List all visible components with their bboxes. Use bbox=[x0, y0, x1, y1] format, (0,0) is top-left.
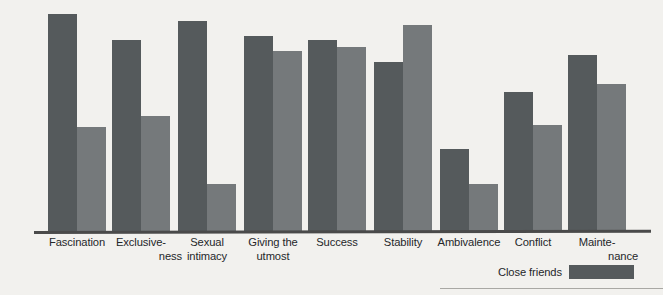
bar bbox=[403, 25, 432, 232]
bar bbox=[440, 149, 469, 232]
bar bbox=[244, 36, 273, 232]
chart-legend: Close friends bbox=[498, 265, 634, 279]
bar-group bbox=[568, 14, 626, 232]
bar bbox=[112, 40, 141, 232]
bar bbox=[568, 55, 597, 232]
bar bbox=[374, 62, 403, 232]
bar bbox=[207, 184, 236, 232]
bar bbox=[469, 184, 498, 232]
bar-group bbox=[308, 14, 366, 232]
bar bbox=[178, 21, 207, 232]
footer-rule bbox=[440, 288, 663, 289]
legend-swatch-close-friends bbox=[569, 265, 634, 279]
bar bbox=[273, 51, 302, 232]
bar bbox=[77, 127, 106, 232]
bar-group bbox=[374, 14, 432, 232]
x-axis-label: Mainte-nance bbox=[542, 236, 652, 263]
bar-group bbox=[48, 14, 106, 232]
legend-label-close-friends: Close friends bbox=[498, 266, 562, 278]
bar bbox=[48, 14, 77, 232]
plot-area bbox=[40, 14, 648, 232]
bar-chart-figure: FascinationExclusive-nessSexualintimacyG… bbox=[0, 0, 663, 295]
bar-group bbox=[112, 14, 170, 232]
bar bbox=[337, 47, 366, 232]
bar bbox=[308, 40, 337, 232]
bar bbox=[504, 92, 533, 232]
bar bbox=[597, 84, 626, 232]
bar-group bbox=[178, 14, 236, 232]
bar bbox=[141, 116, 170, 232]
x-axis-line bbox=[34, 230, 651, 234]
bar-group bbox=[244, 14, 302, 232]
bar-group bbox=[504, 14, 562, 232]
bar bbox=[533, 125, 562, 232]
bar-group bbox=[440, 14, 498, 232]
